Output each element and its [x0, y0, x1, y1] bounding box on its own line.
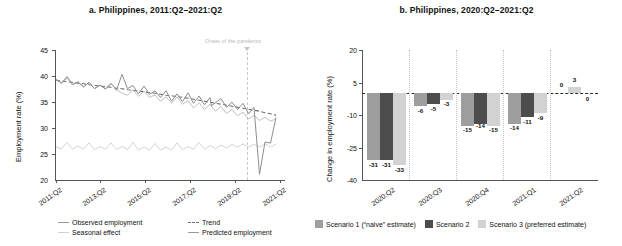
panel-b-category-separator [456, 50, 457, 180]
panel-b-category-separator [409, 50, 410, 180]
bar-label-2020q2-scenario3: -33 [389, 166, 410, 173]
panel-b: b. Philippines, 2020:Q2–2021:Q2 Change i… [311, 0, 622, 246]
bar-2020q2-scenario3[interactable] [393, 93, 406, 165]
series-trend [56, 80, 276, 115]
legend-label: Trend [202, 219, 220, 226]
panel-a-xtickmark [280, 180, 281, 183]
panel-a-xtick-2015q2: 2015:Q2 [107, 186, 152, 220]
panel-b-x-axis-line [362, 180, 598, 181]
panel-a-xtick-2011q2: 2011:Q2 [18, 186, 63, 220]
panel-a-legend: Observed employment Trend Seasonal effec… [58, 219, 272, 236]
legend-item-scenario-1[interactable]: Scenario 1 (“naive” estimate) [315, 220, 416, 228]
legend-item-predicted-employment[interactable]: Predicted employment [188, 229, 272, 236]
legend-label: Predicted employment [202, 229, 272, 236]
bar-label-2020q3-scenario3: -3 [436, 100, 457, 107]
legend-swatch-icon [425, 220, 433, 228]
panel-a-ytick-40: 40 [26, 73, 48, 80]
panel-a-legend-row-1: Observed employment Trend [58, 219, 272, 226]
legend-line-icon [188, 232, 199, 233]
panel-b-xtick-2020q4: 2020:Q4 [447, 186, 490, 219]
panel-b-category-separator [503, 50, 504, 180]
panel-b-xtick-2020q3: 2020:Q3 [400, 186, 443, 219]
bar-label-2020q4-scenario3: -15 [483, 126, 504, 133]
bar-2020q2-scenario1[interactable] [367, 93, 380, 160]
panel-b-ytick-minus40: -40 [335, 177, 357, 184]
legend-line-icon [58, 222, 69, 223]
panel-a-xtick-2019q2: 2019:Q2 [197, 186, 242, 220]
panel-b-legend: Scenario 1 (“naive” estimate) Scenario 2… [315, 220, 586, 228]
panel-b-xtick-2020q2: 2020:Q2 [353, 186, 396, 219]
panel-b-title: b. Philippines, 2020:Q2–2021:Q2 [311, 5, 622, 15]
panel-b-ytick-minus10: -10 [335, 112, 357, 119]
legend-item-trend[interactable]: Trend [188, 219, 220, 226]
panel-a-xtick-2013q2: 2013:Q2 [62, 186, 107, 220]
bar-2020q2-scenario2[interactable] [380, 93, 393, 160]
panel-a-y-axis-title: Employment rate (%) [14, 92, 23, 162]
panel-a-ytick-30: 30 [26, 125, 48, 132]
bar-2020q4-scenario2[interactable] [474, 93, 487, 123]
series-seasonal-effect [56, 142, 276, 150]
bar-label-2021q2-scenario2: 3 [564, 76, 585, 83]
panel-b-ytick-minus25: -25 [335, 144, 357, 151]
legend-label: Scenario 2 [436, 221, 469, 228]
bar-label-2021q1-scenario1: -14 [504, 124, 525, 131]
panel-a-xtickmark [56, 180, 57, 183]
bar-2020q4-scenario1[interactable] [461, 93, 474, 126]
panel-b-legend-row: Scenario 1 (“naive” estimate) Scenario 2… [315, 220, 586, 228]
legend-label: Seasonal effect [72, 229, 120, 236]
legend-item-seasonal-effect[interactable]: Seasonal effect [58, 229, 188, 236]
legend-label: Scenario 3 (preferred estimate) [489, 221, 586, 228]
panel-b-xtick-2021q1: 2021:Q1 [494, 186, 537, 219]
series-observed-employment [56, 74, 276, 174]
panel-a-ytick-25: 25 [26, 151, 48, 158]
panel-b-ytick-20: 20 [335, 47, 357, 54]
figure-container: a. Philippines, 2011:Q2–2021:Q2 Employme… [0, 0, 622, 246]
bar-label-2021q1-scenario3: -9 [530, 114, 551, 121]
panel-a-ytick-35: 35 [26, 99, 48, 106]
panel-b-xtick-2021q2: 2021:Q2 [541, 186, 584, 219]
bar-label-2021q2-scenario3: 0 [577, 95, 598, 102]
panel-a-xtickmark [145, 180, 146, 183]
panel-b-y-axis-title: Change in employment rate (%) [325, 76, 334, 182]
panel-a-plot [55, 50, 286, 181]
bar-2020q3-scenario3[interactable] [440, 93, 453, 100]
bar-2021q1-scenario3[interactable] [534, 93, 547, 113]
legend-dashed-line-icon [188, 222, 199, 223]
panel-a-xtick-2017q2: 2017:Q2 [152, 186, 197, 220]
legend-label: Scenario 1 (“naive” estimate) [326, 221, 416, 228]
panel-a-title: a. Philippines, 2011:Q2–2021:Q2 [0, 5, 311, 15]
panel-a-xtickmark [235, 180, 236, 183]
legend-swatch-icon [478, 220, 486, 228]
panel-b-ytick-5: 5 [335, 79, 357, 86]
panel-a-ytick-45: 45 [26, 47, 48, 54]
panel-a-ytick-20: 20 [26, 177, 48, 184]
panel-a-xtick-2021q2: 2021:Q2 [242, 186, 287, 220]
legend-item-observed-employment[interactable]: Observed employment [58, 219, 188, 226]
panel-a-legend-row-2: Seasonal effect Predicted employment [58, 229, 272, 236]
legend-swatch-icon [315, 220, 323, 228]
panel-a-xtickmark [100, 180, 101, 183]
legend-line-icon [58, 232, 69, 233]
legend-item-scenario-2[interactable]: Scenario 2 [425, 220, 469, 228]
legend-label: Observed employment [72, 219, 142, 226]
panel-a-xtickmark [190, 180, 191, 183]
legend-item-scenario-3[interactable]: Scenario 3 (preferred estimate) [478, 220, 586, 228]
bar-2020q4-scenario3[interactable] [487, 93, 500, 126]
panel-a: a. Philippines, 2011:Q2–2021:Q2 Employme… [0, 0, 311, 246]
panel-a-pandemic-annotation: Onset of the pandemic [205, 38, 261, 44]
